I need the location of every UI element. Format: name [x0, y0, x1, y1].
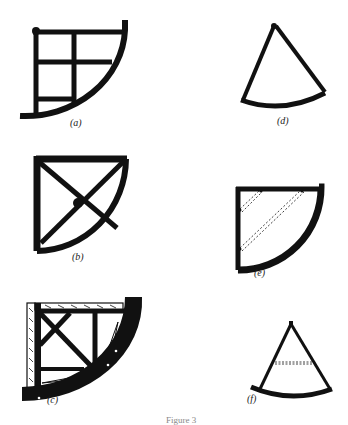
panel-c-label: (c) — [47, 394, 58, 405]
figure-caption: Figure 3 — [166, 415, 196, 425]
panel-f-drawing — [251, 321, 332, 396]
panel-a-label: (a) — [70, 117, 82, 128]
panel-a-drawing — [20, 20, 125, 116]
panel-d-label: (d) — [277, 115, 289, 126]
panel-b-drawing — [36, 156, 127, 251]
panel-e-drawing — [236, 187, 322, 270]
panel-d-drawing — [241, 23, 325, 106]
panel-e-label: (e) — [254, 267, 265, 278]
panel-c-drawing — [22, 297, 142, 401]
panel-f-label: (f) — [247, 393, 256, 404]
panel-b-label: (b) — [72, 251, 84, 262]
